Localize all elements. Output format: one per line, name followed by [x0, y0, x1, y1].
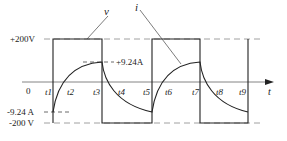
t-axis-label: t [268, 86, 271, 97]
tick-t2: t2 [67, 87, 75, 97]
i-leader-line [140, 10, 181, 64]
tick-t4: t4 [118, 87, 126, 97]
i-min-label: -9.24 A [7, 107, 35, 117]
current-curve-label: i [135, 1, 138, 13]
v-min-label: -200 V [9, 118, 35, 128]
tick-t8: t8 [216, 87, 224, 97]
tick-t9: t9 [239, 87, 247, 97]
voltage-curve-label: v [104, 5, 109, 17]
v-leader-line [87, 16, 108, 39]
v-max-label: +200V [10, 34, 36, 44]
i-max-label: +9.24A [116, 57, 144, 67]
tick-t6: t6 [165, 87, 173, 97]
tick-t5: t5 [143, 87, 151, 97]
tick-t3: t3 [93, 87, 101, 97]
waveform-diagram: v i +200V +9.24A -9.24 A -200 V 0 t1 t2 … [0, 0, 287, 141]
tick-t7: t7 [192, 87, 200, 97]
voltage-waveform [53, 39, 248, 123]
t-axis-arrow-icon [265, 79, 274, 85]
origin-label: 0 [26, 86, 31, 96]
tick-t1: t1 [45, 87, 52, 97]
